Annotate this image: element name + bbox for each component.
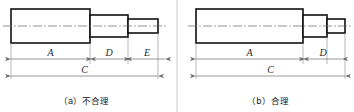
panel-b-chain-dimension-row: A D xyxy=(196,47,342,59)
panel-a-caption: （a）不合理 xyxy=(59,96,109,106)
panel-a-chain-dimension-row: A D E xyxy=(11,47,165,59)
panel-a-label-C: C xyxy=(81,64,88,75)
panel-a-label-D: D xyxy=(104,47,113,58)
panel-a-label-E: E xyxy=(143,47,150,58)
panel-b-caption: （b）合理 xyxy=(247,96,288,106)
panel-b-label-A: A xyxy=(245,47,253,58)
stepped-shaft-dimensioning-figure: A D E C （a）不合理 A xyxy=(0,0,354,112)
panel-b-label-D: D xyxy=(318,47,327,58)
panel-a-unreasonable: A D E C （a）不合理 xyxy=(3,9,168,106)
panel-a-label-A: A xyxy=(46,47,54,58)
panel-b-label-C: C xyxy=(267,64,274,75)
panel-a-overall-dimension-row: C xyxy=(11,64,158,76)
panel-b-overall-dimension-row: C xyxy=(196,64,345,76)
panel-b-reasonable: A D C （b）合理 xyxy=(188,9,352,106)
